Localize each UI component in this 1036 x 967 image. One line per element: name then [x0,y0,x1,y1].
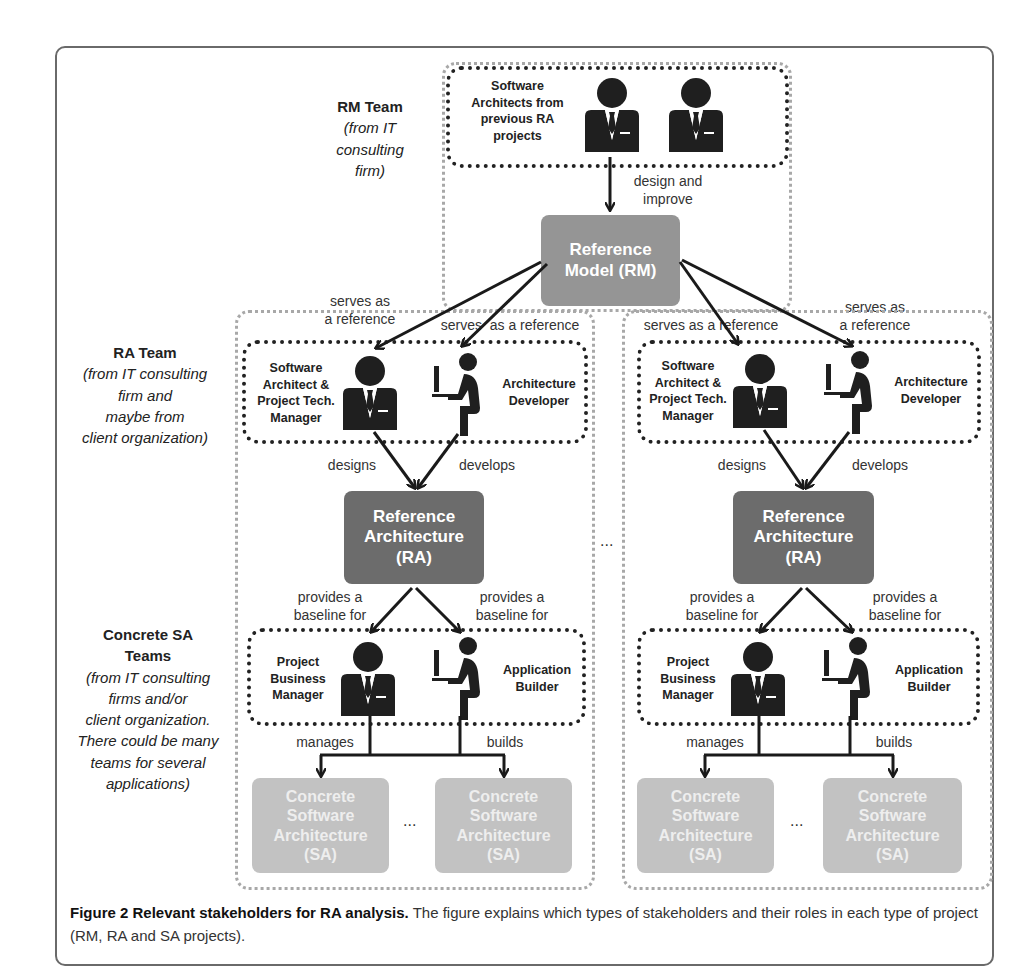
rm-box-line: Reference [565,240,657,260]
sa-box-line: (SA) [456,845,550,864]
figure-caption: Figure 2 Relevant stakeholders for RA an… [70,902,980,947]
role-line: Software [246,360,346,377]
sa-teams-note-4: There could be many [58,730,238,751]
ra-box-line: Architecture [364,527,464,547]
ra-team-note-1: (from IT consulting [55,363,235,384]
rm-team-note-2: consulting [300,139,440,160]
role-line: Architect & [246,377,346,394]
baseline-line: provides a [280,588,380,606]
role-line: Builder [492,679,582,696]
sa-box-line: Software [845,806,939,825]
manages-label-1: manages [285,733,365,751]
role-line: Project [652,654,724,671]
developer-icon [430,352,494,436]
sa-box-line: Architecture [658,826,752,845]
reference-architecture-box-1: Reference Architecture (RA) [344,491,484,584]
develops-label-1: develops [447,456,527,474]
rm-team-role-line: projects [455,128,580,145]
sa-box-line: Architecture [456,826,550,845]
sa-teams-note-1: (from IT consulting [58,667,238,688]
sa-box-line: Software [456,806,550,825]
rm-team-role-line: previous RA [455,111,580,128]
sa-box-line: Architecture [845,826,939,845]
sa-teams-note-5: teams for several [58,752,238,773]
sa-box-line: Concrete [658,787,752,806]
role-line: Builder [884,679,974,696]
sa-teams-note-2: firms and/or [58,688,238,709]
businessman-icon [728,640,788,716]
concrete-sa-box-2b: Concrete Software Architecture (SA) [823,778,962,873]
sa-box-line: Software [273,806,367,825]
role-line: Project [262,654,334,671]
baseline-left-label-1: provides a baseline for [280,588,380,624]
baseline-right-label-2: provides a baseline for [855,588,955,624]
sa-teams-title-1: Concrete SA [58,624,238,645]
rm-team-label: RM Team (from IT consulting firm) [300,96,440,181]
architect-label-1: Software Architect & Project Tech. Manag… [246,360,346,426]
ra-box-line: (RA) [753,548,853,568]
ra-box-line: Reference [364,507,464,527]
sa-teams-label: Concrete SA Teams (from IT consulting fi… [58,624,238,794]
sa-box-line: (SA) [273,845,367,864]
role-line: Manager [652,687,724,704]
rm-team-role-line: Architects from [455,95,580,112]
between-projects-ellipsis: ... [600,532,613,550]
sa-box-line: Architecture [273,826,367,845]
design-improve-line: improve [618,190,718,208]
manages-label-2: manages [675,733,755,751]
architect-label-2: Software Architect & Project Tech. Manag… [638,358,738,424]
baseline-line: provides a [462,588,562,606]
developer-label-2: Architecture Developer [884,374,978,407]
concrete-sa-box-2a: Concrete Software Architecture (SA) [637,778,774,873]
role-line: Developer [492,393,586,410]
baseline-line: baseline for [672,606,772,624]
concrete-sa-box-1b: Concrete Software Architecture (SA) [435,778,572,873]
designs-label-1: designs [312,456,392,474]
ra-box-line: Reference [753,507,853,527]
role-line: Architecture [492,376,586,393]
caption-title: Figure 2 Relevant stakeholders for RA an… [70,904,409,921]
role-line: Architecture [884,374,978,391]
sa-ellipsis-1: ... [403,812,416,830]
role-line: Manager [246,410,346,427]
baseline-line: baseline for [280,606,380,624]
concrete-sa-box-1a: Concrete Software Architecture (SA) [252,778,389,873]
businessman-icon [582,76,642,152]
sa-box-line: (SA) [658,845,752,864]
sa-box-line: (SA) [845,845,939,864]
role-line: Manager [638,408,738,425]
developer-label-1: Architecture Developer [492,376,586,409]
builds-label-2: builds [864,733,924,751]
baseline-line: baseline for [855,606,955,624]
baseline-line: provides a [672,588,772,606]
businessman-icon [730,352,790,428]
sa-teams-note-3: client organization. [58,709,238,730]
role-line: Project Tech. [638,391,738,408]
sa-box-line: Concrete [456,787,550,806]
design-improve-line: design and [618,172,718,190]
sa-teams-note-6: applications) [58,773,238,794]
ra-team-note-3: maybe from [55,406,235,427]
role-line: Business [652,671,724,688]
ra-team-note-4: client organization) [55,427,235,448]
reference-model-box: Reference Model (RM) [541,215,680,306]
developer-icon [822,350,886,434]
designs-label-2: designs [702,456,782,474]
manager-label-1: Project Business Manager [262,654,334,704]
rm-team-title: RM Team [300,96,440,117]
builder-label-2: Application Builder [884,662,974,695]
manager-label-2: Project Business Manager [652,654,724,704]
reference-architecture-box-2: Reference Architecture (RA) [733,491,874,584]
design-improve-label: design and improve [618,172,718,208]
businessman-icon [340,354,400,430]
sa-teams-title-2: Teams [58,645,238,666]
ra-team-title: RA Team [55,342,235,363]
developer-icon [430,636,494,720]
baseline-line: provides a [855,588,955,606]
develops-label-2: develops [840,456,920,474]
rm-box-line: Model (RM) [565,261,657,281]
role-line: Application [492,662,582,679]
role-line: Business [262,671,334,688]
rm-team-note-1: (from IT [300,117,440,138]
ra-team-label: RA Team (from IT consulting firm and may… [55,342,235,448]
